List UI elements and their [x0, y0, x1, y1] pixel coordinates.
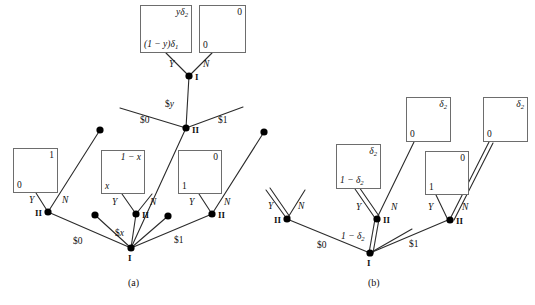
edge-label-money: $1: [174, 236, 184, 246]
edge-label-N: N: [391, 203, 397, 213]
edge-label-N: N: [462, 203, 468, 213]
a-node-II-center: [132, 210, 139, 217]
payoff-box: δ2 1 − δ2: [336, 144, 381, 189]
a-stub-dot-2: [260, 128, 267, 135]
edge-label-Y: Y: [268, 202, 273, 212]
edge-label-Y: Y: [169, 60, 174, 70]
node-label-player: I: [128, 254, 132, 263]
a-node-I-bottom: [127, 244, 134, 251]
a-edge-stub-dot-3: [95, 215, 131, 248]
caption-panel-a: (a): [128, 277, 139, 288]
node-label-player: II: [383, 216, 390, 225]
caption-panel-b: (b): [368, 277, 380, 288]
edge-label-N: N: [62, 196, 68, 206]
a-stub-dot-1: [96, 126, 103, 133]
a-node-II-right: [208, 210, 215, 217]
payoff-top-right: 0: [460, 154, 465, 164]
edge-label-N: N: [203, 60, 209, 70]
payoff-bottom-left: x: [105, 182, 109, 192]
a-node-II-left: [44, 208, 51, 215]
edge-label-money: $0: [317, 241, 327, 251]
node-label-player: II: [142, 211, 149, 220]
payoff-bottom-left: 1: [429, 183, 434, 193]
payoff-bottom-left: 0: [410, 130, 415, 140]
payoff-top-right: 1 − x: [121, 153, 141, 163]
edge-label-Y: Y: [112, 198, 117, 208]
edge-label-delta: 1 − δ2: [341, 232, 365, 242]
edge-label-N: N: [298, 202, 304, 212]
payoff-box: 1 − x x: [101, 150, 145, 194]
a-edge-stub-dot-4: [131, 216, 168, 248]
b-node-II-center: [373, 215, 380, 222]
edge-label-Y: Y: [428, 203, 433, 213]
edge-label-money: $1: [218, 116, 228, 126]
edge-label-money: $0: [140, 116, 150, 126]
payoff-top-right: 1: [49, 151, 54, 161]
edge-label-Y: Y: [29, 196, 34, 206]
edge-label-Y: Y: [356, 203, 361, 213]
payoff-bottom-left: 0: [203, 41, 208, 51]
b-edge-Y-center-b: [359, 187, 379, 216]
edge-label-money: $y: [165, 100, 174, 110]
node-label-player: I: [367, 259, 371, 268]
node-label-player: II: [35, 209, 42, 218]
payoff-top-right: 0: [213, 153, 218, 163]
figure-canvas: yδ2 (1 − y)δ1 0 0 1 0 1 − x x 0 1 δ2 1 −…: [0, 0, 535, 305]
node-label-player: II: [218, 211, 225, 220]
payoff-top-right: δ2: [516, 100, 524, 110]
node-label-player: II: [192, 126, 199, 135]
node-label-player: II: [456, 217, 463, 226]
payoff-top-right: δ2: [369, 147, 377, 157]
b-node-II-left: [283, 215, 290, 222]
edge-label-money: $x: [115, 229, 124, 239]
payoff-bottom-left: 0: [487, 130, 492, 140]
edge-label-money: $0: [73, 237, 83, 247]
payoff-box: δ2 0: [483, 97, 528, 142]
a-node-I-top: [185, 72, 192, 79]
payoff-bottom-left: (1 − y)δ1: [144, 40, 178, 50]
payoff-box: 0 1: [178, 150, 222, 194]
payoff-box: δ2 0: [406, 97, 451, 142]
payoff-top-right: δ2: [439, 100, 447, 110]
a-edge-Y-center: [122, 194, 136, 214]
payoff-box: 1 0: [13, 148, 58, 193]
edge-label-Y: Y: [189, 198, 194, 208]
payoff-box: 0 0: [199, 5, 246, 53]
edge-label-money: $1: [409, 240, 419, 250]
payoff-top-right: 0: [237, 8, 242, 18]
node-label-player: I: [195, 73, 199, 82]
a-node-II-mid: [182, 124, 189, 131]
payoff-box: yδ2 (1 − y)δ1: [140, 5, 192, 53]
b-node-I-bottom: [366, 249, 373, 256]
payoff-bottom-left: 1 − δ2: [340, 176, 364, 186]
edge-label-N: N: [224, 198, 230, 208]
b-edge-Y-right: [436, 195, 448, 220]
payoff-bottom-left: 0: [17, 181, 22, 191]
payoff-box: 0 1: [425, 151, 469, 195]
edge-label-N: N: [150, 198, 156, 208]
node-label-player: II: [274, 216, 281, 225]
a-edge-money-y: [186, 76, 189, 128]
payoff-top-right: yδ2: [176, 8, 188, 18]
a-edge-stub-0-mid: [120, 108, 186, 128]
a-stub-dot-4: [164, 212, 171, 219]
payoff-bottom-left: 1: [182, 182, 187, 192]
b-node-II-right: [446, 216, 453, 223]
a-stub-dot-3: [91, 211, 98, 218]
